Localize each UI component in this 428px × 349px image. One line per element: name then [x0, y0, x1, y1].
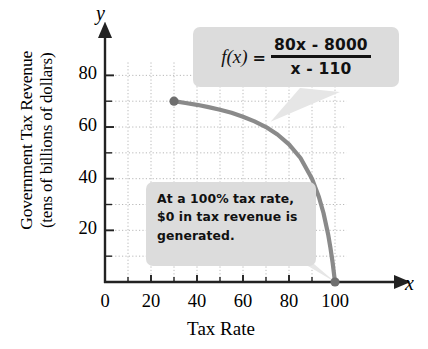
x-tick-label: 40 [175, 291, 219, 312]
formula-fraction: 80x - 8000 x - 110 [271, 36, 371, 77]
note-callout-text: At a 100% tax rate, $0 in tax revenue is… [157, 190, 309, 245]
formula-callout: f(x) = 80x - 8000 x - 110 [193, 27, 399, 87]
curve-endpoint-dot-start [169, 97, 178, 106]
note-callout: At a 100% tax rate, $0 in tax revenue is… [146, 182, 316, 266]
formula-equals: = [253, 48, 266, 67]
y-tick-label: 20 [59, 218, 97, 239]
x-tick-label: 0 [83, 291, 127, 312]
formula-numerator: 80x - 8000 [271, 36, 371, 55]
curve-endpoint-dot-end [330, 277, 339, 286]
x-tick-label: 100 [313, 291, 357, 312]
y-axis-variable-label: y [96, 2, 105, 25]
x-tick-label: 20 [129, 291, 173, 312]
formula-denominator: x - 110 [287, 58, 354, 78]
y-tick-label: 80 [59, 63, 97, 84]
note-callout-line3: generated. [157, 227, 309, 245]
note-callout-line1: At a 100% tax rate, [157, 190, 309, 208]
formula-callout-tail [271, 88, 340, 122]
note-callout-line2: $0 in tax revenue is [157, 208, 309, 226]
y-tick-label: 40 [59, 167, 97, 188]
x-tick-label: 80 [267, 291, 311, 312]
x-tick-label: 60 [221, 291, 265, 312]
formula-function-label: f(x) [221, 46, 247, 68]
y-tick-label: 60 [59, 115, 97, 136]
x-axis-variable-label: x [405, 272, 414, 295]
x-axis-title: Tax Rate [105, 318, 337, 340]
tax-revenue-chart-figure: Government Tax Revenue (tens of billions… [0, 0, 428, 349]
